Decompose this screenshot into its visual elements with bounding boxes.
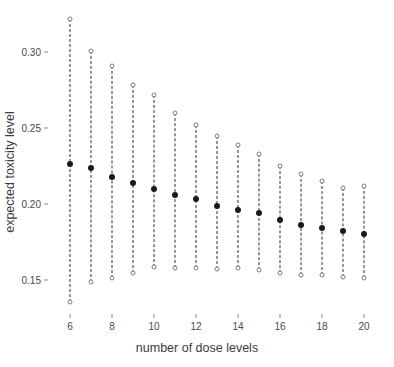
lower-bound-point	[362, 275, 367, 280]
upper-bound-point	[173, 110, 178, 115]
upper-bound-point	[110, 64, 115, 69]
lower-bound-point	[320, 273, 325, 278]
expected-toxicity-point	[151, 186, 157, 192]
expected-toxicity-point	[193, 196, 199, 202]
expected-toxicity-point	[214, 203, 220, 209]
error-bar-line	[175, 113, 176, 268]
expected-toxicity-point	[130, 180, 136, 186]
expected-toxicity-point	[298, 222, 304, 228]
expected-toxicity-point	[67, 161, 73, 167]
upper-bound-point	[320, 179, 325, 184]
y-axis-tick-label: 0.20	[0, 199, 41, 210]
lower-bound-point	[89, 279, 94, 284]
lower-bound-point	[131, 271, 136, 276]
x-axis-tick-mark	[364, 314, 365, 318]
y-axis-tick-mark	[44, 52, 48, 53]
expected-toxicity-point	[88, 165, 94, 171]
x-axis-tick-mark	[112, 314, 113, 318]
lower-bound-point	[173, 265, 178, 270]
y-axis-tick-mark	[44, 280, 48, 281]
expected-toxicity-point	[319, 225, 325, 231]
upper-bound-point	[89, 49, 94, 54]
lower-bound-point	[152, 265, 157, 270]
lower-bound-point	[236, 265, 241, 270]
lower-bound-point	[194, 265, 199, 270]
lower-bound-point	[215, 266, 220, 271]
upper-bound-point	[257, 151, 262, 156]
x-axis-tick-mark	[154, 314, 155, 318]
x-axis-tick-label: 16	[274, 321, 285, 332]
upper-bound-point	[194, 122, 199, 127]
y-axis-tick-label: 0.30	[0, 47, 41, 58]
expected-toxicity-point	[340, 228, 346, 234]
upper-bound-point	[236, 142, 241, 147]
x-axis-tick-label: 6	[67, 321, 73, 332]
y-axis-tick-mark	[44, 204, 48, 205]
plot-area	[0, 0, 394, 367]
x-axis-tick-label: 20	[358, 321, 369, 332]
x-axis-tick-label: 8	[109, 321, 115, 332]
upper-bound-point	[215, 133, 220, 138]
expected-toxicity-point	[277, 217, 283, 223]
lower-bound-point	[299, 272, 304, 277]
error-bar-line	[217, 136, 218, 269]
upper-bound-point	[278, 164, 283, 169]
lower-bound-point	[68, 300, 73, 305]
error-bar-line	[112, 66, 113, 278]
expected-toxicity-point	[235, 207, 241, 213]
x-axis-tick-label: 14	[232, 321, 243, 332]
x-axis-title: number of dose levels	[136, 341, 258, 355]
x-axis-tick-mark	[70, 314, 71, 318]
lower-bound-point	[257, 268, 262, 273]
x-axis-tick-label: 10	[148, 321, 159, 332]
expected-toxicity-point	[109, 174, 115, 180]
lower-bound-point	[278, 271, 283, 276]
upper-bound-point	[362, 183, 367, 188]
upper-bound-point	[299, 172, 304, 177]
y-axis-tick-mark	[44, 128, 48, 129]
y-axis-tick-label: 0.15	[0, 275, 41, 286]
x-axis-tick-label: 18	[316, 321, 327, 332]
x-axis-tick-mark	[280, 314, 281, 318]
upper-bound-point	[68, 17, 73, 22]
x-axis-tick-mark	[196, 314, 197, 318]
x-axis-tick-mark	[322, 314, 323, 318]
upper-bound-point	[152, 93, 157, 98]
upper-bound-point	[131, 82, 136, 87]
upper-bound-point	[341, 186, 346, 191]
expected-toxicity-point	[361, 231, 367, 237]
lower-bound-point	[110, 276, 115, 281]
x-axis-tick-label: 12	[190, 321, 201, 332]
chart-figure: expected toxicity level number of dose l…	[0, 0, 394, 367]
lower-bound-point	[341, 274, 346, 279]
x-axis-tick-mark	[238, 314, 239, 318]
expected-toxicity-point	[256, 210, 262, 216]
error-bar-line	[154, 95, 155, 267]
y-axis-tick-label: 0.25	[0, 123, 41, 134]
expected-toxicity-point	[172, 192, 178, 198]
